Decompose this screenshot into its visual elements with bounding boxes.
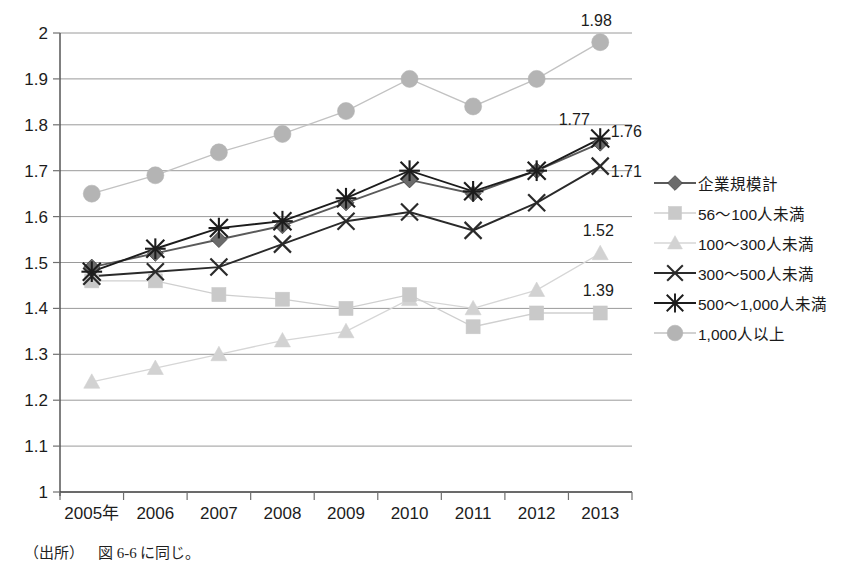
data-point-marker <box>590 128 611 149</box>
data-point-marker <box>81 261 102 282</box>
data-point-marker <box>338 103 355 120</box>
data-point-marker <box>592 158 609 175</box>
legend-item[interactable]: 56〜100人未満 <box>652 198 848 228</box>
y-tick-label: 2 <box>39 24 48 43</box>
x-tick-label: 2013 <box>581 504 619 523</box>
y-tick-label: 1.2 <box>24 391 48 410</box>
y-tick-label: 1.7 <box>24 162 48 181</box>
x-tick-label: 2010 <box>391 504 429 523</box>
legend-label: 企業規模計 <box>698 172 778 194</box>
x-tick-label: 2012 <box>518 504 556 523</box>
legend-item[interactable]: 企業規模計 <box>652 168 848 198</box>
data-point-marker <box>526 160 547 181</box>
legend-marker-triangle-icon <box>652 231 698 255</box>
data-point-marker <box>669 207 682 220</box>
legend-item[interactable]: 100〜300人未満 <box>652 228 848 258</box>
data-point-marker <box>145 238 166 259</box>
legend-label: 1,000人以上 <box>698 322 785 344</box>
data-point-marker <box>667 325 683 341</box>
data-point-marker <box>592 34 609 51</box>
data-point-marker <box>209 218 230 239</box>
x-tick-label: 2009 <box>327 504 365 523</box>
data-point-marker <box>668 236 683 249</box>
source-prefix: （出所） <box>24 545 84 561</box>
source-note: （出所）図 6-6 に同じ。 <box>24 541 201 562</box>
legend-item[interactable]: 300〜500人未満 <box>652 258 848 288</box>
y-tick-label: 1.9 <box>24 70 48 89</box>
data-point-marker <box>399 160 420 181</box>
data-point-marker <box>466 320 480 334</box>
chart-figure: 21.91.81.71.61.51.41.31.21.11 2005年20062… <box>0 0 848 576</box>
y-tick-label: 1.6 <box>24 208 48 227</box>
legend-marker-square-icon <box>652 201 698 225</box>
series-markers <box>81 34 610 389</box>
y-tick-label: 1.8 <box>24 116 48 135</box>
data-point-marker <box>529 282 545 296</box>
data-point-marker <box>338 323 354 337</box>
data-value-label: 1.77 <box>559 111 590 128</box>
x-tick-label: 2005年 <box>64 504 119 523</box>
data-point-marker <box>665 293 684 312</box>
data-point-marker <box>210 144 227 161</box>
data-point-marker <box>465 98 482 115</box>
data-point-marker <box>528 194 545 211</box>
chart-legend: 企業規模計56〜100人未満100〜300人未満300〜500人未満500〜1,… <box>652 168 848 348</box>
y-axis-tick-labels: 21.91.81.71.61.51.41.31.21.11 <box>24 24 48 502</box>
data-point-marker <box>403 288 417 302</box>
y-tick-label: 1.4 <box>24 299 48 318</box>
data-point-marker <box>212 288 226 302</box>
series-line <box>92 253 600 382</box>
legend-marker-circle-icon <box>652 321 698 345</box>
data-point-marker <box>463 181 484 202</box>
x-tick-label: 2011 <box>455 504 492 523</box>
data-value-label: 1.76 <box>611 123 642 140</box>
data-value-label: 1.98 <box>581 12 612 29</box>
source-text: 図 6-6 に同じ。 <box>98 545 201 561</box>
x-axis-ticks <box>60 492 632 500</box>
data-value-label: 1.52 <box>583 222 614 239</box>
legend-label: 500〜1,000人未満 <box>698 292 827 314</box>
legend-label: 300〜500人未満 <box>698 262 814 284</box>
y-tick-label: 1 <box>39 483 48 502</box>
data-point-marker <box>147 167 164 184</box>
x-tick-label: 2008 <box>264 504 302 523</box>
data-point-marker <box>275 292 289 306</box>
data-point-marker <box>668 176 683 191</box>
data-point-marker <box>274 236 291 253</box>
legend-marker-x-icon <box>652 261 698 285</box>
data-point-marker <box>339 301 353 315</box>
x-tick-label: 2007 <box>200 504 238 523</box>
x-tick-label: 2006 <box>136 504 174 523</box>
legend-item[interactable]: 1,000人以上 <box>652 318 848 348</box>
y-tick-label: 1.5 <box>24 254 48 273</box>
data-point-marker <box>274 125 291 142</box>
gridlines <box>60 33 632 492</box>
data-value-label: 1.71 <box>611 163 642 180</box>
data-point-marker <box>336 188 357 209</box>
data-point-marker <box>83 185 100 202</box>
y-axis-ticks <box>53 33 60 492</box>
legend-label: 56〜100人未満 <box>698 202 805 224</box>
legend-item[interactable]: 500〜1,000人未満 <box>652 288 848 318</box>
y-tick-label: 1.1 <box>24 437 48 456</box>
data-point-marker <box>592 245 608 259</box>
data-point-marker <box>272 211 293 232</box>
data-point-marker <box>465 222 482 239</box>
x-axis-tick-labels: 2005年20062007200820092010201120122013 <box>64 504 619 523</box>
data-point-marker <box>401 70 418 87</box>
y-tick-label: 1.3 <box>24 345 48 364</box>
data-point-marker <box>593 306 607 320</box>
data-value-label: 1.39 <box>583 282 614 299</box>
legend-label: 100〜300人未満 <box>698 232 814 254</box>
legend-marker-asterisk-icon <box>652 291 698 315</box>
data-point-marker <box>528 70 545 87</box>
legend-marker-diamond-icon <box>652 171 698 195</box>
data-point-marker <box>530 306 544 320</box>
